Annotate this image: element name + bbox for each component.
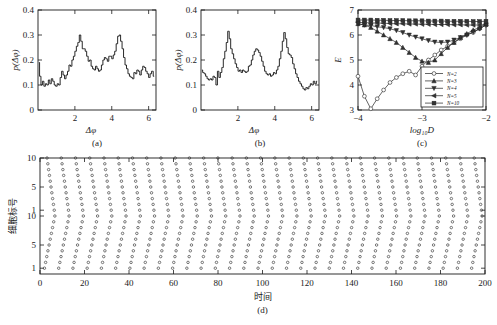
spike-dot — [231, 255, 234, 258]
spike-dot — [47, 168, 50, 171]
spike-dot — [470, 267, 473, 270]
panel-b-frame — [201, 10, 319, 110]
panel-c: 34567−4−3−2N=2N=3N=4N=5N=10Elog₁₀D(c) — [328, 0, 497, 155]
spike-dot — [303, 250, 306, 253]
spike-dot — [145, 255, 148, 258]
spike-dot — [449, 186, 452, 189]
spike-dot — [320, 238, 323, 241]
spike-dot — [252, 203, 255, 206]
spike-dot — [479, 197, 482, 200]
spike-dot — [375, 168, 378, 171]
spike-dot — [48, 244, 51, 247]
spike-dot — [134, 238, 137, 241]
spike-dot — [251, 226, 254, 229]
spike-dot — [203, 250, 206, 253]
spike-dot — [350, 192, 353, 195]
panel-d-xtick-label: 200 — [478, 278, 492, 288]
spike-dot — [392, 232, 395, 235]
spike-dot — [456, 267, 459, 270]
spike-dot — [389, 168, 392, 171]
spike-dot — [63, 238, 66, 241]
spike-dot — [279, 226, 282, 229]
spike-dot — [104, 250, 107, 253]
spike-dot — [303, 163, 306, 166]
spike-dot — [465, 203, 468, 206]
spike-dot — [352, 221, 355, 224]
spike-dot — [130, 261, 133, 264]
spike-dot — [385, 267, 388, 270]
spike-dot — [391, 180, 394, 183]
panel-d-xtick-label: 0 — [38, 278, 43, 288]
spike-dot — [164, 186, 167, 189]
spike-dot — [281, 209, 284, 212]
spike-dot — [251, 197, 254, 200]
spike-dot — [362, 180, 365, 183]
spike-dot — [248, 174, 251, 177]
spike-dot — [291, 238, 294, 241]
spike-dot — [374, 250, 377, 253]
spike-dot — [146, 250, 149, 253]
spike-dot — [235, 232, 238, 235]
spike-dot — [109, 203, 112, 206]
spike-dot — [143, 267, 146, 270]
panel-b: 00.10.20.30.4246p(Δφ)Δφ(b) — [163, 0, 338, 155]
panel-a-frame — [38, 10, 156, 110]
panel-c-marker — [369, 107, 373, 111]
spike-dot — [305, 238, 308, 241]
spike-dot — [375, 244, 378, 247]
spike-dot — [92, 238, 95, 241]
spike-dot — [66, 197, 69, 200]
spike-dot — [52, 203, 55, 206]
spike-dot — [177, 180, 180, 183]
spike-dot — [273, 255, 276, 258]
spike-dot — [51, 197, 54, 200]
panel-a-ytick-label: 0.3 — [23, 30, 35, 40]
panel-c-marker — [420, 59, 424, 63]
spike-dot — [328, 267, 331, 270]
spike-dot — [390, 174, 393, 177]
spike-dot — [337, 203, 340, 206]
spike-dot — [96, 209, 99, 212]
panel-d-ytick-label: 1 — [32, 263, 37, 273]
spike-dot — [356, 267, 359, 270]
panel-a-panel-label: (a) — [92, 138, 102, 148]
spike-dot — [321, 232, 324, 235]
panel-c-marker — [382, 18, 386, 22]
spike-dot — [239, 215, 242, 218]
spike-dot — [308, 197, 311, 200]
spike-dot — [261, 244, 264, 247]
spike-dot — [406, 232, 409, 235]
spike-dot — [171, 267, 174, 270]
spike-dot — [50, 186, 53, 189]
spike-dot — [47, 250, 50, 253]
spike-dot — [444, 255, 447, 258]
panel-c-xtick-label: −4 — [353, 113, 363, 123]
panel-a-xtick-label: 2 — [73, 113, 78, 123]
spike-dot — [363, 232, 366, 235]
spike-dot — [289, 168, 292, 171]
spike-dot — [377, 180, 380, 183]
spike-dot — [365, 203, 368, 206]
panel-c-marker — [401, 45, 405, 49]
spike-dot — [67, 209, 70, 212]
spike-dot — [73, 261, 76, 264]
spike-dot — [188, 255, 191, 258]
spike-dot — [134, 180, 137, 183]
spike-dot — [218, 250, 221, 253]
spike-dot — [124, 209, 127, 212]
spike-dot — [204, 168, 207, 171]
panel-c-marker — [395, 19, 399, 23]
spike-dot — [105, 244, 108, 247]
spike-dot — [278, 192, 281, 195]
panel-c-ytick-label: 5 — [350, 55, 355, 65]
spike-dot — [461, 244, 464, 247]
spike-dot — [144, 261, 147, 264]
spike-dot — [177, 238, 180, 241]
spike-dot — [125, 215, 128, 218]
spike-dot — [135, 186, 138, 189]
spike-dot — [433, 238, 436, 241]
spike-dot — [464, 197, 467, 200]
spike-dot — [247, 244, 250, 247]
spike-dot — [433, 174, 436, 177]
spike-dot — [307, 192, 310, 195]
